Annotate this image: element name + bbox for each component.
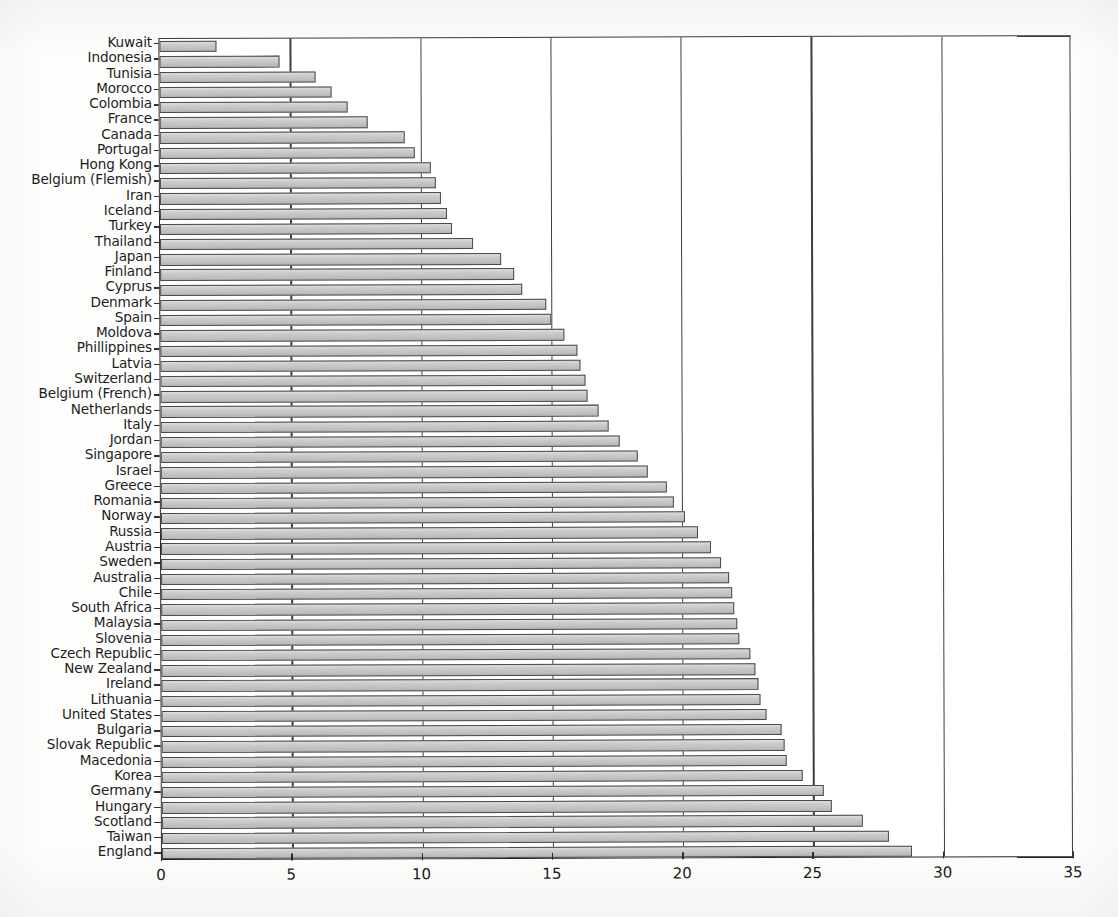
y-axis-label: Moldova xyxy=(96,324,152,340)
bar xyxy=(161,679,758,692)
bar xyxy=(161,511,685,524)
bar xyxy=(161,587,732,600)
bar xyxy=(161,451,638,464)
y-axis-label: Macedonia xyxy=(80,752,152,768)
x-axis-tick-0 xyxy=(161,854,162,861)
bar xyxy=(161,390,588,403)
bar xyxy=(161,527,698,540)
y-axis-label: Belgium (French) xyxy=(39,385,152,401)
y-axis-label: Indonesia xyxy=(88,49,152,65)
bar xyxy=(160,375,585,388)
bar xyxy=(161,663,755,676)
y-axis-label: South Africa xyxy=(71,599,152,615)
y-axis-label: Bulgaria xyxy=(97,721,152,737)
y-axis-label: Slovenia xyxy=(95,630,152,646)
bar xyxy=(160,192,441,204)
y-axis-label: Colombia xyxy=(89,95,152,111)
bar xyxy=(161,618,737,631)
y-axis-label: Norway xyxy=(101,507,152,523)
x-axis-label: 30 xyxy=(933,864,952,882)
y-axis-label: Japan xyxy=(115,248,152,264)
bars-container xyxy=(159,36,1072,859)
bar xyxy=(161,481,667,494)
x-axis-tick-5 xyxy=(291,854,292,861)
x-axis-label: 35 xyxy=(1063,863,1082,881)
y-axis-label: Italy xyxy=(123,416,152,432)
y-axis-label: Morocco xyxy=(96,80,152,96)
y-axis-label: Finland xyxy=(104,263,152,279)
bar xyxy=(160,117,368,129)
bar xyxy=(160,299,546,312)
bar xyxy=(159,41,216,53)
y-axis-label: Spain xyxy=(115,309,152,325)
y-axis-label: Cyprus xyxy=(105,278,152,294)
bar xyxy=(161,557,721,570)
bar xyxy=(161,603,734,616)
bar xyxy=(160,147,415,159)
bar-chart: KuwaitIndonesiaTunisiaMoroccoColombiaFra… xyxy=(0,0,1118,917)
bar xyxy=(160,314,551,327)
bar xyxy=(161,435,620,448)
bar xyxy=(160,268,514,281)
y-axis-label: Iceland xyxy=(104,202,152,218)
y-axis-label: Jordan xyxy=(110,431,152,447)
bar xyxy=(162,815,863,829)
bar xyxy=(160,208,447,220)
bar xyxy=(161,420,609,433)
bar xyxy=(162,800,832,813)
y-axis-label: Canada xyxy=(101,126,152,142)
x-axis-tick-20 xyxy=(682,852,683,859)
y-axis-label: Portugal xyxy=(97,141,152,157)
y-axis-label: Malaysia xyxy=(94,614,152,630)
y-axis-label: Germany xyxy=(91,782,152,798)
bar xyxy=(160,359,580,372)
bar xyxy=(161,496,674,509)
bar xyxy=(162,709,767,722)
y-axis-label: Chile xyxy=(119,584,152,600)
bar xyxy=(159,56,279,68)
x-axis-label: 5 xyxy=(287,866,297,884)
y-axis-label: Phillippines xyxy=(77,339,152,355)
y-axis-label: Israel xyxy=(116,462,152,478)
x-axis: 05101520253035 xyxy=(161,857,1073,900)
y-axis-label: Hungary xyxy=(95,798,152,814)
bar xyxy=(162,724,782,737)
bar xyxy=(160,71,316,83)
bar xyxy=(160,101,348,113)
bar xyxy=(160,238,473,250)
y-axis-label: Kuwait xyxy=(107,34,152,50)
y-axis-label: Belgium (Flemish) xyxy=(31,171,152,187)
x-axis-label: 15 xyxy=(542,865,561,883)
bar xyxy=(162,830,889,844)
y-axis-label: Latvia xyxy=(112,355,153,371)
bar xyxy=(160,344,577,357)
y-axis-label: Netherlands xyxy=(71,401,152,417)
y-axis-label: Czech Republic xyxy=(51,645,152,661)
bar xyxy=(161,648,750,661)
x-axis-tick-35 xyxy=(1073,851,1074,858)
x-axis-tick-25 xyxy=(812,852,813,859)
y-axis-label: Lithuania xyxy=(90,691,152,707)
y-axis-label: Denmark xyxy=(91,294,152,310)
bar xyxy=(161,542,711,555)
y-axis-label: Thailand xyxy=(95,233,152,249)
y-axis-label: Slovak Republic xyxy=(47,736,152,752)
plot-area xyxy=(158,35,1073,860)
bar xyxy=(160,284,522,297)
bar xyxy=(160,177,436,189)
y-axis-label: Korea xyxy=(114,767,152,783)
y-axis-label: Sweden xyxy=(99,553,152,569)
y-axis-label: Taiwan xyxy=(107,828,152,844)
x-axis-label: 0 xyxy=(156,866,166,884)
y-axis-label: Iran xyxy=(126,187,152,203)
bar xyxy=(162,770,803,783)
bar xyxy=(160,86,332,98)
x-axis-tick-15 xyxy=(552,853,553,860)
y-axis-labels: KuwaitIndonesiaTunisiaMoroccoColombiaFra… xyxy=(0,38,152,860)
y-axis-label: Singapore xyxy=(85,446,152,462)
bar xyxy=(160,223,452,235)
y-axis-label: Hong Kong xyxy=(79,156,152,172)
bar xyxy=(161,466,648,479)
y-axis-label: Tunisia xyxy=(107,65,152,81)
y-axis-label: Turkey xyxy=(109,217,152,233)
